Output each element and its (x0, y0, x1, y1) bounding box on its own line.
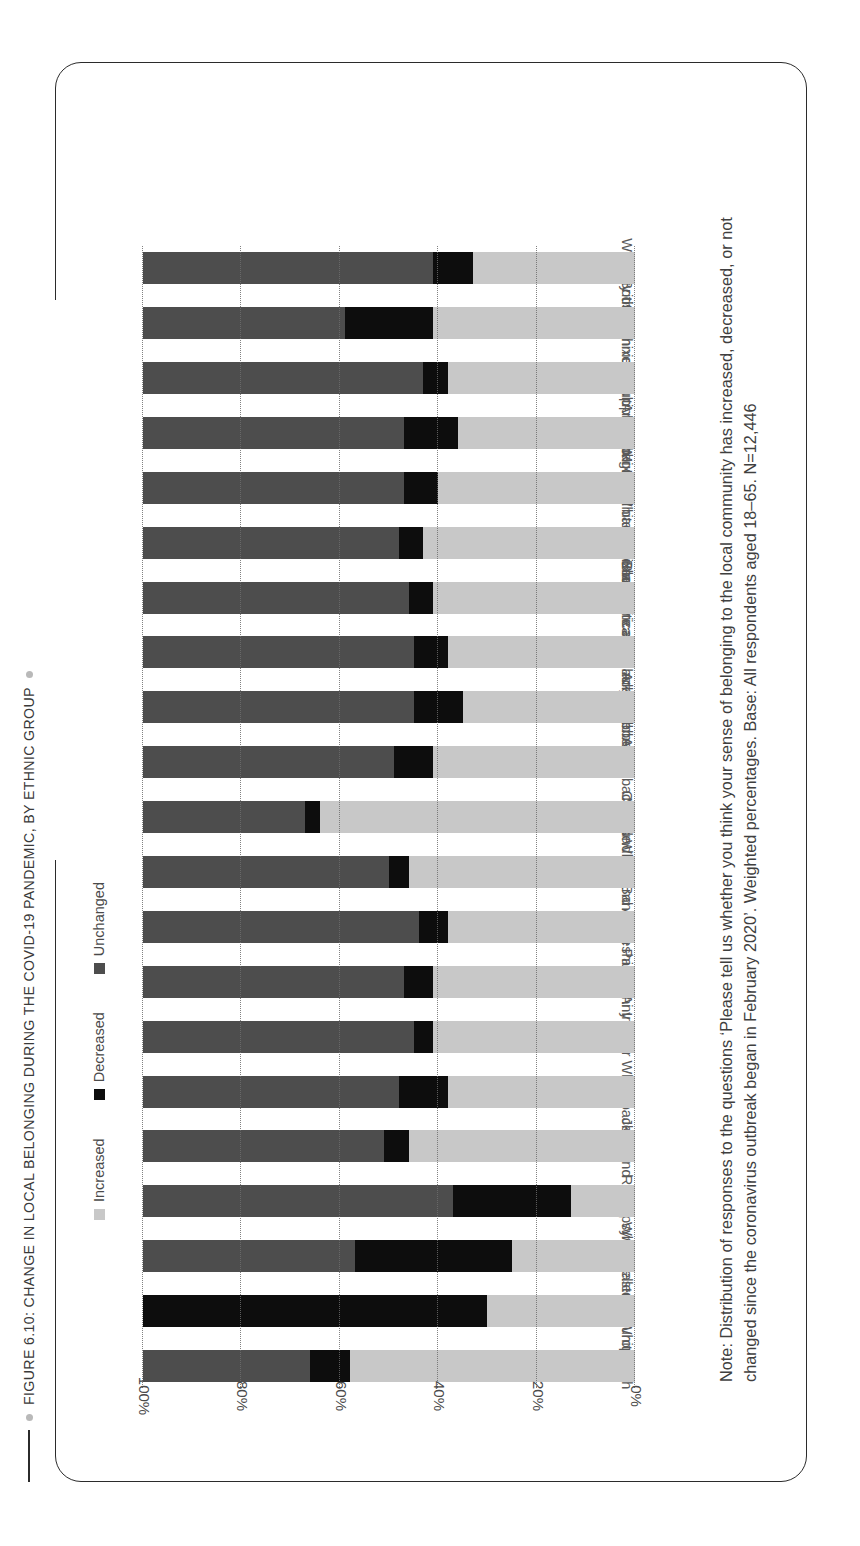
bar-segment-decreased (143, 1295, 487, 1327)
bar-column (143, 252, 635, 284)
figure-title-band: FIGURE 6.10: CHANGE IN LOCAL BELONGING D… (9, 62, 49, 1482)
bar-segment-unchanged (143, 1350, 310, 1382)
bar-segment-unchanged (143, 636, 414, 668)
chart-legend: IncreasedDecreasedUnchanged (91, 882, 107, 1220)
bar-segment-decreased (305, 801, 320, 833)
bar-column (143, 691, 635, 723)
legend-item-unchanged: Unchanged (91, 882, 107, 974)
bar-column (143, 582, 635, 614)
bar-segment-decreased (389, 856, 409, 888)
bar-segment-increased (487, 1295, 635, 1327)
bar-segment-unchanged (143, 691, 414, 723)
bar-segment-decreased (453, 1185, 571, 1217)
bar-segment-unchanged (143, 417, 404, 449)
legend-label-increased: Increased (91, 1138, 107, 1202)
bar-segment-unchanged (143, 801, 305, 833)
legend-label-unchanged: Unchanged (91, 882, 107, 956)
legend-item-decreased: Decreased (91, 1012, 107, 1100)
bar-segment-decreased (414, 636, 448, 668)
bar-segment-decreased (345, 307, 434, 339)
bar-segment-unchanged (143, 1130, 384, 1162)
value-axis-tick-0: 0% (628, 1364, 645, 1428)
bar-segment-increased (423, 527, 635, 559)
bar-column (143, 527, 635, 559)
bar-group (143, 252, 635, 1382)
bar-column (143, 417, 635, 449)
bar-segment-increased (350, 1350, 635, 1382)
bar-segment-increased (463, 691, 635, 723)
bar-segment-increased (433, 966, 635, 998)
bar-column (143, 1295, 635, 1327)
title-rule (28, 1430, 30, 1482)
bar-segment-unchanged (143, 362, 423, 394)
value-axis-tick-60: 60% (333, 1364, 350, 1428)
title-bullet-dot-left (26, 1414, 33, 1421)
bar-segment-unchanged (143, 1185, 453, 1217)
bar-segment-increased (433, 746, 635, 778)
bar-segment-increased (448, 1076, 635, 1108)
bar-segment-decreased (355, 1240, 512, 1272)
bar-column (143, 1130, 635, 1162)
bar-segment-decreased (404, 417, 458, 449)
bar-segment-increased (433, 1021, 635, 1053)
chart-plot-area (143, 252, 635, 1382)
bar-column (143, 1076, 635, 1108)
legend-item-increased: Increased (91, 1138, 107, 1220)
bar-segment-unchanged (143, 911, 419, 943)
bar-column (143, 362, 635, 394)
bar-segment-unchanged (143, 527, 399, 559)
bar-segment-decreased (399, 1076, 448, 1108)
bar-segment-decreased (433, 252, 472, 284)
bar-column (143, 1240, 635, 1272)
rotated-figure-canvas: FIGURE 6.10: CHANGE IN LOCAL BELONGING D… (55, 62, 807, 1482)
figure-note: Note: Distribution of responses to the q… (715, 172, 762, 1382)
bar-segment-decreased (409, 582, 434, 614)
legend-swatch-unchanged (94, 963, 105, 974)
bar-segment-decreased (399, 527, 424, 559)
figure-page: FIGURE 6.10: CHANGE IN LOCAL BELONGING D… (0, 0, 860, 1546)
bar-segment-increased (512, 1240, 635, 1272)
page-title: FIGURE 6.10: CHANGE IN LOCAL BELONGING D… (21, 687, 37, 1405)
bar-segment-unchanged (143, 1021, 414, 1053)
bar-segment-decreased (414, 1021, 434, 1053)
legend-swatch-increased (94, 1209, 105, 1220)
bar-segment-increased (409, 856, 635, 888)
bar-column (143, 307, 635, 339)
bar-segment-decreased (384, 1130, 409, 1162)
bar-column (143, 856, 635, 888)
bar-segment-unchanged (143, 966, 404, 998)
title-bullet-dot-right (26, 671, 33, 678)
bar-segment-increased (433, 307, 635, 339)
bar-segment-unchanged (143, 856, 389, 888)
value-axis-tick-100: 100% (136, 1364, 153, 1428)
value-axis-tick-20: 20% (530, 1364, 547, 1428)
bar-column (143, 911, 635, 943)
value-axis-tick-80: 80% (234, 1364, 251, 1428)
bar-segment-unchanged (143, 252, 433, 284)
bar-segment-increased (438, 472, 635, 504)
bar-segment-unchanged (143, 582, 409, 614)
bar-column (143, 966, 635, 998)
bar-column (143, 1185, 635, 1217)
bar-segment-decreased (414, 691, 463, 723)
bar-column (143, 1350, 635, 1382)
bar-segment-unchanged (143, 472, 404, 504)
bar-segment-increased (320, 801, 635, 833)
legend-label-decreased: Decreased (91, 1012, 107, 1082)
bar-segment-increased (448, 911, 635, 943)
bar-column (143, 801, 635, 833)
bar-segment-decreased (423, 362, 448, 394)
bar-segment-increased (409, 1130, 635, 1162)
bar-column (143, 636, 635, 668)
bar-segment-unchanged (143, 1076, 399, 1108)
bar-segment-decreased (404, 966, 434, 998)
bar-segment-decreased (419, 911, 449, 943)
bar-segment-unchanged (143, 746, 394, 778)
bar-column (143, 1021, 635, 1053)
bar-segment-unchanged (143, 307, 345, 339)
bar-segment-increased (571, 1185, 635, 1217)
bar-segment-decreased (404, 472, 438, 504)
bar-column (143, 472, 635, 504)
legend-swatch-decreased (94, 1089, 105, 1100)
bar-segment-increased (448, 362, 635, 394)
